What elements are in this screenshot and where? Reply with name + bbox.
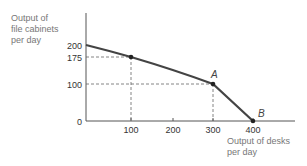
x-tick-label-100: 100 [123,125,138,135]
point-100-175 [129,55,134,60]
point-a-label: A [210,69,218,80]
y-tick-label-175: 175 [67,53,82,63]
point-b [251,119,256,124]
point-b-label: B [258,108,265,119]
y-tick-label-200: 200 [67,41,82,51]
x-tick-label-400: 400 [245,125,260,135]
y-tick-label-100: 100 [67,80,82,90]
x-tick-label-200: 200 [165,125,180,135]
x-tick-label-300: 300 [205,125,220,135]
y-tick-label-0: 0 [77,117,82,127]
point-a [211,82,216,87]
ppf-curve [86,45,253,121]
chart-plot: A B 200 175 100 0 100 200 300 400 [0,0,307,166]
